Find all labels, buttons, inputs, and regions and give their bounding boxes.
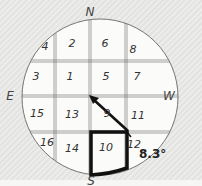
angle-label: 8.3° [139, 148, 166, 160]
cell-label: 16 [40, 137, 54, 148]
east-label: E [6, 90, 14, 102]
cell-label: 2 [69, 38, 76, 49]
cell-label: 7 [134, 71, 141, 82]
west-label: W [163, 90, 175, 102]
south-label: S [87, 175, 95, 186]
cell-label: 13 [65, 109, 79, 120]
north-label: N [86, 6, 95, 18]
cell-label-highlighted: 10 [99, 142, 113, 153]
cell-label: 14 [65, 143, 79, 154]
cell-label: 15 [30, 108, 44, 119]
cell-label: 3 [33, 71, 40, 82]
cell-label: 8 [130, 44, 137, 55]
cell-label: 4 [42, 41, 49, 52]
cell-label: 11 [131, 110, 145, 121]
cell-label: 1 [67, 71, 74, 82]
cell-label: 9 [104, 108, 111, 119]
cell-label: 6 [102, 38, 109, 49]
cell-label: 5 [103, 71, 110, 82]
